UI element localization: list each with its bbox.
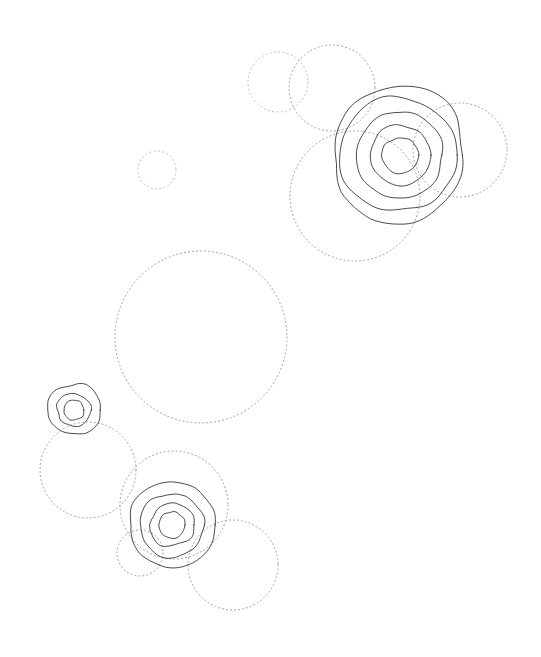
plot-svg	[0, 0, 541, 657]
plot-background	[0, 0, 541, 657]
contour-plot-canvas	[0, 0, 541, 657]
